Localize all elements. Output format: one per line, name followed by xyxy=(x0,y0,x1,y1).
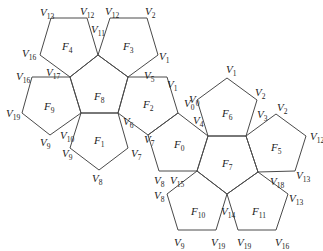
vertex-label-v19: V19 xyxy=(237,236,251,251)
vertex-label-v8: V8 xyxy=(154,174,165,189)
face-label-f9: F9 xyxy=(43,100,55,115)
vertex-label-v19: V19 xyxy=(211,236,225,251)
vertex-label-v13: V13 xyxy=(289,192,303,207)
vertex-label-v14: V14 xyxy=(221,205,235,220)
face-label-f7: F7 xyxy=(221,157,233,172)
vertex-label-v7: V7 xyxy=(131,147,142,162)
face-label-f6: F6 xyxy=(221,107,233,122)
vertex-label-v9: V9 xyxy=(174,236,185,251)
vertex-labels: V13V12V12V2V11V1V16V17V5V1V16V19V0V0V4V1… xyxy=(6,5,323,251)
vertex-label-v3: V3 xyxy=(257,108,268,123)
face-label-f11: F11 xyxy=(251,205,266,220)
face-label-f1: F1 xyxy=(93,134,105,149)
vertex-label-v2: V2 xyxy=(145,5,156,20)
vertex-label-v12: V12 xyxy=(310,130,323,145)
vertex-label-v6: V6 xyxy=(123,115,134,130)
dodecahedron-net-diagram: F0F1F2F3F4F5F6F7F8F9F10F11 V13V12V12V2V1… xyxy=(0,0,323,251)
face-label-f2: F2 xyxy=(142,98,154,113)
vertex-label-v11: V11 xyxy=(91,23,105,38)
vertex-label-v2: V2 xyxy=(255,86,266,101)
vertex-label-v8: V8 xyxy=(154,189,165,204)
vertex-label-v8: V8 xyxy=(92,172,103,187)
vertex-label-v7: V7 xyxy=(144,133,155,148)
vertex-label-v1: V1 xyxy=(167,78,178,93)
face-label-f3: F3 xyxy=(122,40,134,55)
vertex-label-v10: V10 xyxy=(60,129,74,144)
face-label-f10: F10 xyxy=(190,205,205,220)
vertex-label-v1: V1 xyxy=(226,63,237,78)
face-label-f5: F5 xyxy=(270,141,282,156)
vertex-label-v12: V12 xyxy=(80,5,94,20)
vertex-label-v2: V2 xyxy=(277,101,288,116)
vertex-label-v16: V16 xyxy=(22,47,36,62)
vertex-label-v5: V5 xyxy=(144,69,155,84)
vertex-label-v16: V16 xyxy=(275,236,289,251)
vertex-label-v13: V13 xyxy=(296,169,310,184)
vertex-label-v19: V19 xyxy=(6,107,20,122)
vertex-label-v12: V12 xyxy=(105,5,119,20)
face-label-f4: F4 xyxy=(61,40,73,55)
vertex-label-v1: V1 xyxy=(159,50,170,65)
face-label-f0: F0 xyxy=(173,138,185,153)
vertex-label-v9: V9 xyxy=(40,136,51,151)
vertex-label-v16: V16 xyxy=(16,70,30,85)
face-labels: F0F1F2F3F4F5F6F7F8F9F10F11 xyxy=(43,40,282,220)
face-label-f8: F8 xyxy=(93,90,105,105)
vertex-label-v13: V13 xyxy=(40,6,54,21)
vertex-label-v18: V18 xyxy=(270,175,284,190)
vertex-label-v15: V15 xyxy=(170,174,184,189)
